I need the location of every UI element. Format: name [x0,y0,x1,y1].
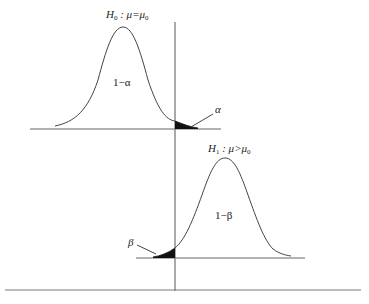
power-area-label: 1−β [215,209,233,221]
alt-distribution-curve [153,158,291,257]
confidence-area-label: 1−α [113,76,131,88]
beta-leader [137,245,156,254]
alt-hypothesis-label: H1 : μ>μ0 [207,142,251,156]
hypothesis-test-diagram: H0 : μ=μ0 1−α α H1 : μ>μ0 1−β β [0,0,369,304]
alpha-leader [191,114,213,127]
beta-label: β [127,236,134,248]
alpha-label: α [215,103,221,115]
null-hypothesis-label: H0 : μ=μ0 [105,8,149,22]
beta-region [153,248,175,258]
